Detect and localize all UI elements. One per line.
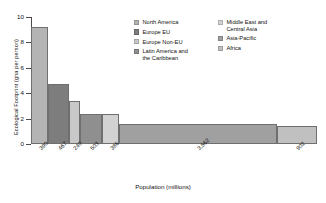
y-axis-tick-label: 6 bbox=[6, 65, 24, 71]
legend: North AmericaEurope EUEurope Non-EULatin… bbox=[134, 19, 320, 62]
y-axis-tick-label: 4 bbox=[6, 90, 24, 96]
legend-swatch-icon bbox=[218, 46, 223, 51]
y-axis-tick-label: 8 bbox=[6, 39, 24, 45]
legend-item-label: Europe EU bbox=[142, 29, 170, 36]
legend-swatch-icon bbox=[218, 36, 223, 41]
legend-column-left: North AmericaEurope EUEurope Non-EULatin… bbox=[134, 19, 208, 62]
legend-item: Middle East and Central Asia bbox=[218, 19, 304, 32]
legend-swatch-icon bbox=[218, 20, 223, 25]
legend-item-label: Latin America and the Caribbean bbox=[142, 48, 188, 61]
legend-column-right: Middle East and Central AsiaAsia-Pacific… bbox=[218, 19, 304, 62]
y-axis-tick bbox=[26, 144, 31, 145]
x-axis-title: Population (millions) bbox=[0, 183, 326, 190]
legend-item: Africa bbox=[218, 45, 304, 52]
legend-item: Latin America and the Caribbean bbox=[134, 48, 208, 61]
ecological-footprint-chart: Ecological Footprint (gha per person) 02… bbox=[0, 0, 326, 203]
bar-africa bbox=[277, 126, 317, 144]
bar-asia-pacific bbox=[119, 124, 277, 144]
legend-item-label: Middle East and Central Asia bbox=[226, 19, 267, 32]
bar-europe-eu bbox=[48, 84, 69, 144]
legend-swatch-icon bbox=[134, 39, 139, 44]
bar-latin-america-and-the-caribbean bbox=[80, 114, 102, 144]
legend-item-label: Europe Non-EU bbox=[142, 39, 182, 46]
y-axis-tick-label: 0 bbox=[6, 141, 24, 147]
legend-item-label: Asia-Pacific bbox=[226, 35, 256, 42]
bar-north-america bbox=[31, 27, 48, 144]
legend-item: Europe Non-EU bbox=[134, 39, 208, 46]
legend-item: Asia-Pacific bbox=[218, 35, 304, 42]
legend-item: Europe EU bbox=[134, 29, 208, 36]
legend-item: North America bbox=[134, 19, 208, 26]
legend-swatch-icon bbox=[134, 29, 139, 34]
legend-swatch-icon bbox=[134, 20, 139, 25]
bar-europe-non-eu bbox=[69, 101, 80, 144]
legend-item-label: Africa bbox=[226, 45, 241, 52]
y-axis-tick-label: 10 bbox=[6, 14, 24, 20]
legend-item-label: North America bbox=[142, 19, 178, 26]
y-axis-tick-label: 2 bbox=[6, 116, 24, 122]
legend-swatch-icon bbox=[134, 49, 139, 54]
bar-middle-east-and-central-asia bbox=[102, 114, 119, 144]
